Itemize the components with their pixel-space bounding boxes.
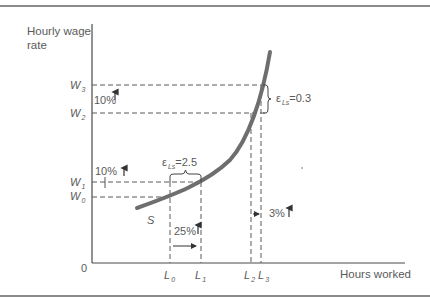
- speck: [301, 167, 303, 169]
- x-axis-label: Hours worked: [340, 269, 411, 281]
- upper-wage-change-label: 10%: [94, 95, 116, 106]
- lower-labor-change-label: 25%: [174, 226, 196, 237]
- elasticity-low-label: εLs=2.5: [162, 157, 197, 168]
- curve-label: S: [147, 215, 154, 226]
- y-axis-label: Hourly wage rate: [27, 24, 91, 52]
- l1-label: L1: [195, 270, 206, 281]
- w0-label: W0: [70, 191, 85, 202]
- y-axis-label-line1: Hourly wage: [27, 24, 91, 38]
- supply-curve: [137, 52, 270, 208]
- w3-label: W3: [70, 80, 85, 91]
- origin-label: 0: [81, 263, 87, 274]
- y-axis-label-line2: rate: [27, 38, 91, 52]
- l0-label: L0: [164, 270, 175, 281]
- w2-label: W2: [70, 108, 85, 119]
- upper-labor-change-label: 3%: [269, 208, 285, 219]
- lower-wage-change-label: 10%: [95, 166, 117, 177]
- l2-label: L2: [244, 270, 255, 281]
- elasticity-low-bracket: [170, 170, 201, 182]
- elasticity-high-label: εLs=0.3: [276, 93, 311, 104]
- l3-label: L3: [258, 270, 269, 281]
- w1-label: W1: [70, 177, 85, 188]
